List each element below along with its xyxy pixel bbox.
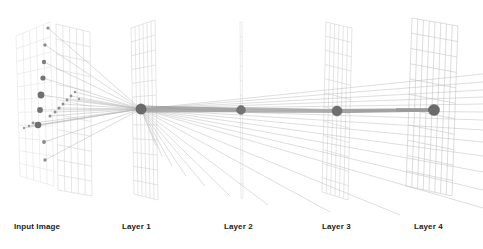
- grid-line-vertical: [452, 26, 458, 196]
- input-image-dot: [78, 98, 80, 100]
- input-image-dot: [49, 115, 52, 118]
- grid-line-vertical: [406, 18, 412, 186]
- input-image-dot: [54, 111, 57, 114]
- input-image-dot: [42, 140, 46, 144]
- ray-line: [44, 109, 141, 142]
- input-image-back-plane: [16, 22, 54, 186]
- input-image-dot: [38, 92, 45, 99]
- input-image-dot: [74, 91, 77, 94]
- grid-line-vertical: [23, 33, 27, 178]
- label-layer-3: Layer 3: [322, 222, 351, 232]
- grid-line-horizontal: [18, 97, 52, 100]
- label-layer-2: Layer 2: [224, 222, 253, 232]
- input-image-dot: [23, 127, 25, 129]
- ray-line: [43, 78, 141, 109]
- ray-line: [141, 74, 483, 109]
- input-image-dot: [42, 60, 46, 64]
- rays-layer-1-fan: [141, 74, 483, 215]
- ray-line: [45, 45, 141, 109]
- ray-line: [79, 99, 141, 109]
- label-input-image: Input Image: [14, 222, 60, 232]
- rays-layer-2-to-layer-3: [241, 108, 337, 113]
- grid-line-vertical: [36, 28, 40, 182]
- ray-line: [141, 109, 186, 176]
- grid-line-horizontal: [16, 37, 50, 49]
- grid-line-horizontal: [17, 52, 51, 62]
- ray-line: [44, 62, 141, 109]
- grid-line-vertical: [83, 30, 85, 194]
- rays-layer-1-to-layer-2: [141, 106, 241, 112]
- label-layer-4: Layer 4: [414, 222, 443, 232]
- grid-line-horizontal: [56, 24, 90, 32]
- grid-line-vertical: [418, 20, 424, 189]
- network-layer-diagram: Input ImageLayer 1Layer 2Layer 3Layer 4: [0, 0, 483, 249]
- grid-line-vertical: [63, 26, 65, 192]
- ray-line: [141, 110, 241, 111]
- grid-line-horizontal: [58, 190, 92, 196]
- layer-1-node: [136, 104, 146, 114]
- ray-line: [141, 109, 205, 186]
- grid-line-vertical: [50, 22, 54, 186]
- input-image-dot: [46, 26, 49, 29]
- grid-line-horizontal: [16, 22, 50, 36]
- input-image-dot: [66, 99, 69, 102]
- grid-line-vertical: [30, 30, 34, 180]
- grid-line-horizontal: [17, 67, 51, 74]
- layer-2-node: [237, 106, 246, 115]
- grid-line-horizontal: [20, 163, 54, 171]
- ray-line: [141, 109, 400, 215]
- layer-4-node: [428, 104, 439, 115]
- input-image-dot: [43, 43, 46, 46]
- grid-line-horizontal: [57, 130, 91, 137]
- grid-line-vertical: [446, 25, 452, 195]
- input-image-dot: [32, 122, 35, 125]
- grid-line-vertical: [16, 36, 20, 176]
- grid-line-vertical: [412, 19, 418, 187]
- grid-line-horizontal: [56, 39, 90, 47]
- grid-line-vertical: [56, 24, 58, 190]
- grid-line-horizontal: [20, 176, 54, 186]
- input-image-dot: [62, 103, 65, 106]
- grid-line-vertical: [441, 24, 447, 194]
- input-image-dot: [57, 106, 60, 109]
- label-layer-1: Layer 1: [122, 222, 151, 232]
- diagram-canvas: [0, 0, 483, 249]
- grid-line-horizontal: [58, 175, 92, 181]
- ray-line: [141, 109, 162, 156]
- layer-3-node: [332, 106, 342, 116]
- input-image-dot: [28, 125, 31, 128]
- input-image-dot: [35, 122, 42, 129]
- input-image-dot: [43, 158, 46, 161]
- grid-line-horizontal: [58, 160, 92, 166]
- input-image-dot: [70, 95, 73, 98]
- input-image-dot: [40, 75, 45, 80]
- grid-line-horizontal: [17, 82, 51, 87]
- grid-line-horizontal: [57, 84, 91, 91]
- grid-line-horizontal: [18, 111, 52, 112]
- grid-line-horizontal: [57, 145, 91, 152]
- ray-line: [141, 109, 268, 205]
- grid-line-vertical: [90, 32, 92, 196]
- grid-line-vertical: [423, 21, 429, 190]
- grid-line-horizontal: [19, 151, 53, 157]
- input-image-dot: [37, 107, 43, 113]
- ray-line: [141, 109, 483, 208]
